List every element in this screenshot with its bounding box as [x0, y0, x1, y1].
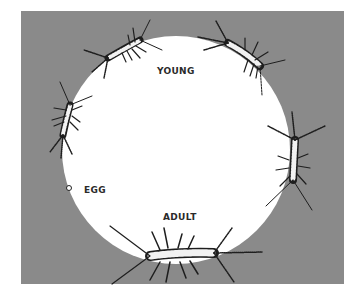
label-adult: ADULT — [163, 213, 197, 222]
label-young: YOUNG — [157, 67, 195, 76]
insect-young-top-right — [198, 21, 285, 95]
insect-young-top-left — [84, 20, 162, 78]
insect-young-left — [50, 82, 92, 158]
insect-adult — [110, 226, 262, 284]
egg-icon — [66, 185, 72, 191]
insect-illustrations — [0, 0, 354, 298]
label-egg: EGG — [84, 186, 106, 195]
insect-young-right — [266, 112, 325, 210]
